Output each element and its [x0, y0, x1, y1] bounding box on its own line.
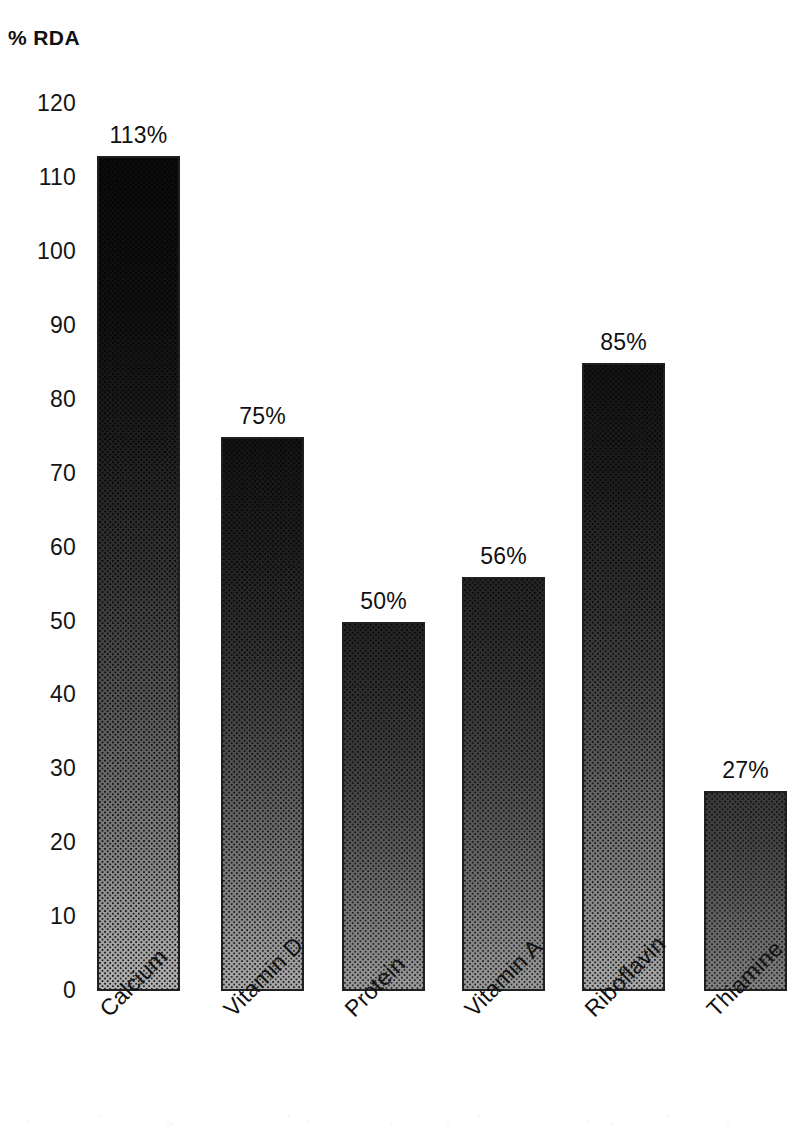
bar[interactable]	[221, 437, 304, 991]
y-axis-tick-20: 20	[14, 831, 76, 854]
y-axis-tick-120: 120	[14, 92, 76, 115]
rda-bar-chart: % RDA 1201101009080706050403020100 113%7…	[0, 0, 811, 1129]
y-axis-tick-110: 110	[14, 166, 76, 189]
scan-grain	[0, 1111, 811, 1129]
bar-group: 50%	[342, 622, 425, 992]
bar[interactable]	[462, 577, 545, 991]
bar-value-label: 56%	[480, 545, 527, 568]
y-axis-tick-50: 50	[14, 610, 76, 633]
bar-value-label: 85%	[600, 331, 647, 354]
bar-group: 113%	[97, 156, 180, 991]
y-axis-tick-40: 40	[14, 683, 76, 706]
bar-value-label: 27%	[722, 759, 769, 782]
bar[interactable]	[342, 622, 425, 992]
y-axis-tick-100: 100	[14, 240, 76, 263]
bar-value-label: 113%	[110, 124, 168, 147]
bar[interactable]	[582, 363, 665, 991]
y-axis-tick-0: 0	[14, 979, 76, 1002]
y-axis-tick-70: 70	[14, 462, 76, 485]
bar-group: 85%	[582, 363, 665, 991]
y-axis-tick-10: 10	[14, 905, 76, 928]
plot-area: 1201101009080706050403020100 113%75%50%5…	[0, 0, 811, 1000]
bar-value-label: 50%	[360, 590, 407, 613]
y-axis-tick-30: 30	[14, 757, 76, 780]
bar-group: 56%	[462, 577, 545, 991]
bar-value-label: 75%	[239, 405, 286, 428]
y-axis-tick-60: 60	[14, 536, 76, 559]
y-axis-tick-80: 80	[14, 388, 76, 411]
y-axis-tick-90: 90	[14, 314, 76, 337]
bar-group: 75%	[221, 437, 304, 991]
bar[interactable]	[97, 156, 180, 991]
